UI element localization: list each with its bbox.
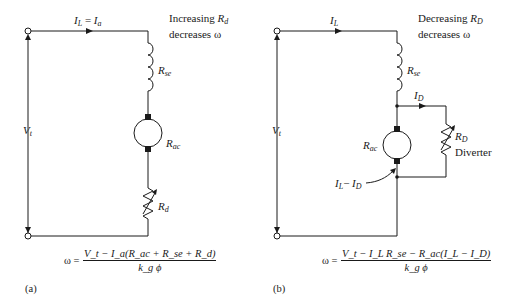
armature-current-label: IL− ID xyxy=(335,177,362,193)
r-subscript: d xyxy=(165,205,169,214)
equals-sign: = xyxy=(82,14,94,26)
series-field-label-b: Rse xyxy=(407,64,420,80)
brush-bottom-a xyxy=(145,146,151,152)
armature-a xyxy=(134,119,162,147)
r-symbol: R xyxy=(363,139,370,151)
r-subscript: ac xyxy=(173,142,181,151)
r-symbol: R xyxy=(455,130,462,142)
diverter-current-label: ID xyxy=(414,89,423,105)
r-symbol: R xyxy=(158,64,165,76)
r-symbol: R xyxy=(158,200,165,212)
v-symbol: V xyxy=(23,124,30,136)
note-a-line1: Increasing Rd xyxy=(169,12,228,28)
diverter-name: Diverter xyxy=(455,146,492,158)
note-a: Increasing Rd decreases ω xyxy=(169,12,228,40)
series-field-inductor-b xyxy=(397,43,402,91)
terminal-bottom-b xyxy=(274,233,280,239)
speed-equation-b: ω = V_t − I_L R_se − R_ac(I_L − I_D) k_g… xyxy=(322,248,492,278)
r-symbol: R xyxy=(407,64,414,76)
v-subscript: t xyxy=(279,129,281,138)
equation-numerator: V_t − I_a(R_ac + R_se + R_d) xyxy=(83,248,216,261)
armature-label-a: Rac xyxy=(166,137,180,153)
diverter-symbol: RD xyxy=(455,130,492,146)
equation-fraction: V_t − I_L R_se − R_ac(I_L − I_D) k_g ϕ xyxy=(341,248,491,273)
note-b: Decreasing RD decreases ω xyxy=(418,12,483,40)
note-text: Decreasing xyxy=(418,12,470,24)
speed-equation-a: ω = V_t − I_a(R_ac + R_se + R_d) k_g ϕ xyxy=(64,248,194,278)
r-subscript: se xyxy=(165,69,172,78)
v-symbol: V xyxy=(272,124,279,136)
caption-a: (a) xyxy=(25,283,37,294)
r-subscript: ac xyxy=(370,144,378,153)
equation-denominator: k_g ϕ xyxy=(405,261,428,273)
brush-bottom-b xyxy=(394,158,400,164)
diverter-label: RD Diverter xyxy=(455,130,492,158)
note-b-line2: decreases ω xyxy=(418,28,483,40)
current-subscript: a xyxy=(98,19,102,28)
variable-resistor-rd xyxy=(143,188,153,219)
rd-label-a: Rd xyxy=(158,200,169,216)
note-sub: d xyxy=(224,17,228,26)
current-subscript: L xyxy=(334,19,338,28)
r-symbol: R xyxy=(166,137,173,149)
note-b-line1: Decreasing RD xyxy=(418,12,483,28)
terminal-top-b xyxy=(274,28,280,34)
note-sub: D xyxy=(477,17,483,26)
diverter-resistor-rd xyxy=(441,124,451,155)
equation-lhs: ω = xyxy=(322,255,337,266)
r-subscript: se xyxy=(414,69,421,78)
series-field-inductor-a xyxy=(148,43,153,91)
note-var: R xyxy=(470,12,477,24)
equation-fraction: V_t − I_a(R_ac + R_se + R_d) k_g ϕ xyxy=(83,248,216,273)
caption-b: (b) xyxy=(273,283,285,294)
voltage-label-a: Vt xyxy=(23,124,32,140)
junction-bottom-b xyxy=(395,175,399,179)
r-subscript: D xyxy=(462,135,468,144)
current-subscript: D xyxy=(418,94,424,103)
load-current-label-a: IL = Ia xyxy=(74,14,102,30)
circuit-b xyxy=(274,28,455,239)
equation-lhs: ω = xyxy=(64,255,79,266)
equation-numerator: V_t − I_L R_se − R_ac(I_L − I_D) xyxy=(341,248,491,261)
terminal-bottom-a xyxy=(25,233,31,239)
note-a-line2: decreases ω xyxy=(169,28,228,40)
minus-sign: − xyxy=(343,177,352,189)
equation-denominator: k_g ϕ xyxy=(138,261,161,273)
armature-label-b: Rac xyxy=(363,139,377,155)
current-subscript: D xyxy=(356,182,362,191)
armature-b xyxy=(383,131,411,159)
v-subscript: t xyxy=(30,129,32,138)
terminal-top-a xyxy=(25,28,31,34)
note-text: Increasing xyxy=(169,12,218,24)
load-current-label-b: IL xyxy=(330,14,338,30)
voltage-label-b: Vt xyxy=(272,124,281,140)
circuit-a xyxy=(25,28,162,239)
series-field-label-a: Rse xyxy=(158,64,171,80)
armature-current-pointer xyxy=(366,171,393,183)
